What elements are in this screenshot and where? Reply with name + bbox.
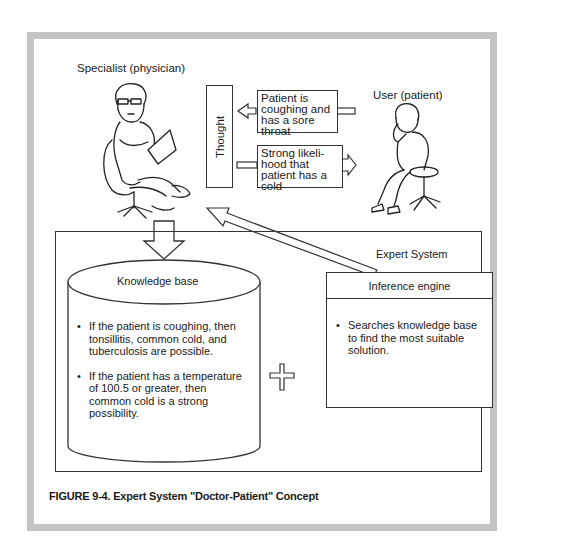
item-line: solution. (348, 344, 477, 357)
item-line: Searches knowledge base (348, 319, 477, 332)
diagnosis-message: Strong likeli- hood that patient has a c… (257, 145, 343, 188)
rule-line: tonsillitis, common cold, and (89, 333, 236, 346)
thought-label: Thought (214, 115, 226, 157)
knowledge-base-rules: • If the patient is coughing, then tonsi… (77, 320, 262, 420)
rule-line: of 100.5 or greater, then (89, 382, 242, 395)
rule-line: If the patient is coughing, then (89, 320, 236, 333)
rule-line: If the patient has a temperature (89, 370, 242, 383)
item-line: to find the most suitable (348, 332, 477, 345)
patient-illustration (372, 104, 440, 214)
rule-line: possibility. (89, 407, 242, 420)
message-line: throat (261, 126, 334, 137)
rule-line: common cold is a strong (89, 395, 242, 408)
rule-item: • If the patient has a temperature of 10… (77, 370, 262, 420)
inference-engine-title: Inference engine (327, 273, 492, 299)
figure-caption: FIGURE 9-4. Expert System "Doctor-Patien… (49, 490, 318, 502)
rule-item: • If the patient is coughing, then tonsi… (77, 320, 262, 358)
bullet: • (336, 319, 348, 357)
knowledge-base-title: Knowledge base (117, 275, 198, 288)
expert-system-title: Expert System (376, 248, 448, 261)
specialist-label: Specialist (physician) (77, 62, 185, 75)
patient-symptom-message: Patient is coughing and has a sore throa… (257, 90, 338, 133)
user-label: User (patient) (373, 89, 443, 102)
message-line: cold (261, 181, 339, 192)
bullet: • (77, 320, 89, 358)
bullet: • (77, 370, 89, 420)
thought-box: Thought (206, 85, 233, 188)
physician-illustration (104, 84, 190, 218)
inference-engine-box: Inference engine • Searches knowledge ba… (326, 272, 493, 408)
inference-item: • Searches knowledge base to find the mo… (336, 319, 484, 357)
rule-line: tuberculosis are possible. (89, 345, 236, 358)
inference-engine-items: • Searches knowledge base to find the mo… (327, 299, 492, 357)
